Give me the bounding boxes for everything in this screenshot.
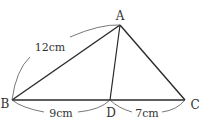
- vertex-label-a: A: [115, 9, 125, 23]
- segment-ac: [120, 25, 185, 100]
- triangle-figure: A B C D 12cm 9cm 7cm: [0, 0, 203, 124]
- geometry-diagram: A B C D 12cm 9cm 7cm: [0, 0, 203, 124]
- measurement-label-ab: 12cm: [35, 41, 66, 54]
- measurement-label-dc: 7cm: [135, 107, 159, 120]
- segment-ab: [12, 25, 120, 100]
- arc-bd-right: [78, 100, 110, 112]
- vertex-label-c: C: [190, 98, 199, 112]
- vertex-label-d: D: [106, 106, 116, 120]
- segment-ad: [110, 25, 120, 100]
- arc-dc-right: [162, 100, 185, 112]
- arc-bd-left: [12, 100, 44, 112]
- measurement-label-bd: 9cm: [49, 107, 73, 120]
- vertex-label-b: B: [1, 97, 10, 111]
